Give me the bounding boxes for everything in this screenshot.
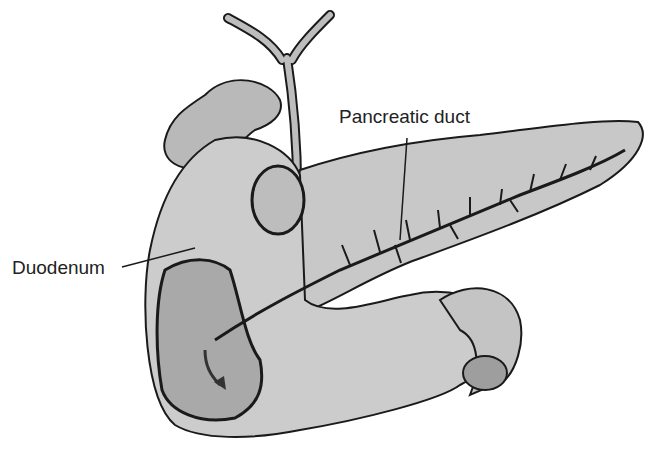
anatomy-illustration bbox=[0, 0, 656, 463]
duodenum-label: Duodenum bbox=[12, 257, 105, 279]
pancreatic-duct-label: Pancreatic duct bbox=[339, 106, 470, 128]
vessel-cross-section bbox=[252, 166, 304, 234]
jejunum-opening bbox=[463, 356, 507, 390]
